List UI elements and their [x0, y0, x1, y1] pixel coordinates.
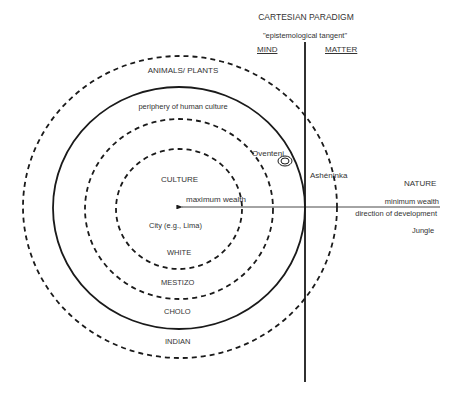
direction-of-development-label: direction of development	[355, 210, 437, 218]
oventeni-label: Oventeni	[252, 150, 284, 158]
minimum-wealth-label: minimum wealth	[385, 198, 439, 206]
nature-label: NATURE	[404, 180, 436, 188]
asheninka-label: Ashéninka	[310, 172, 347, 180]
middle-dashed-ring	[85, 119, 273, 299]
cartesian-paradigm-title: CARTESIAN PARADIGM	[258, 13, 354, 22]
jungle-label: Jungle	[412, 227, 434, 235]
culture-label: CULTURE	[161, 176, 198, 184]
indian-label: INDIAN	[165, 338, 190, 346]
mind-label: MIND	[257, 46, 277, 54]
city-label: City (e.g., Lima)	[149, 222, 202, 230]
oventeni-marker-inner-icon	[281, 158, 289, 164]
periphery-label: periphery of human culture	[138, 103, 227, 111]
matter-label: MATTER	[325, 46, 357, 54]
solid-culture-boundary	[53, 87, 305, 329]
cholo-label: CHOLO	[164, 308, 191, 316]
maximum-wealth-label: maximum wealth	[186, 196, 246, 204]
epistemological-tangent-subtitle: "epistemological tangent"	[263, 32, 347, 40]
mestizo-label: MESTIZO	[161, 279, 194, 287]
white-label: WHITE	[167, 249, 191, 257]
animals-plants-label: ANIMALS/ PLANTS	[148, 67, 219, 75]
